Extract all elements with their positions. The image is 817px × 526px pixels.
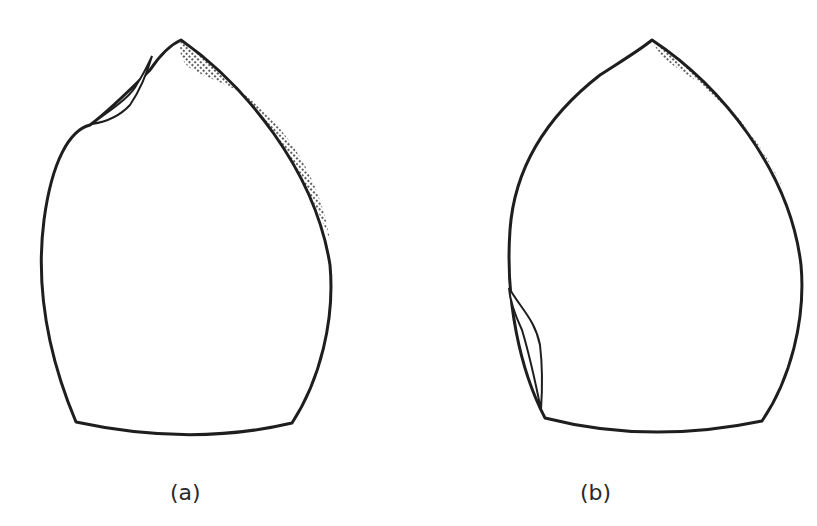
diagram-canvas bbox=[0, 0, 817, 526]
panel-a-outline bbox=[41, 40, 331, 435]
panel-b-shaded-region bbox=[652, 40, 790, 205]
panel-b-label: (b) bbox=[580, 480, 611, 505]
panel-a-flap bbox=[92, 56, 152, 124]
panel-b-flap bbox=[509, 288, 542, 410]
panel-a-shaded-region bbox=[180, 40, 330, 240]
panel-a-shape bbox=[41, 40, 331, 435]
panel-b-shape bbox=[509, 40, 802, 432]
panel-b-outline bbox=[509, 40, 802, 432]
panel-a-label: (a) bbox=[170, 480, 201, 505]
